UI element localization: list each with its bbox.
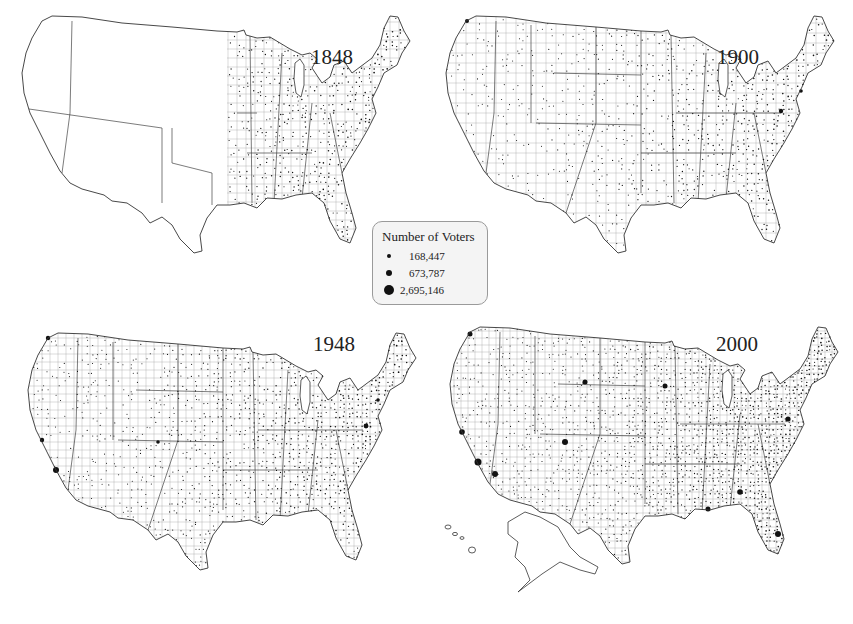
county-dot xyxy=(465,378,466,379)
county-dot xyxy=(766,436,768,438)
county-dot xyxy=(650,457,651,458)
county-dot xyxy=(549,106,550,107)
county-dot xyxy=(681,465,682,466)
county-dot xyxy=(131,511,132,512)
county-dot xyxy=(625,466,626,467)
county-dot xyxy=(620,393,621,394)
county-dot xyxy=(316,481,318,483)
county-dot xyxy=(278,95,279,96)
county-dot xyxy=(820,333,821,334)
county-dot xyxy=(514,134,515,135)
county-dot xyxy=(671,48,672,49)
county-dot xyxy=(497,330,498,331)
county-dot xyxy=(757,95,759,97)
county-dot xyxy=(343,474,345,476)
county-dot xyxy=(312,191,313,192)
county-dot xyxy=(317,396,318,397)
county-dot xyxy=(478,330,479,331)
county-dot xyxy=(582,521,583,522)
county-dot xyxy=(153,476,154,477)
county-dot xyxy=(478,406,479,407)
county-dot xyxy=(333,110,335,112)
county-dot xyxy=(706,437,707,438)
county-dot xyxy=(677,398,678,399)
county-dot xyxy=(396,49,397,50)
county-dot xyxy=(290,444,291,445)
county-dot xyxy=(153,520,154,521)
county-dot xyxy=(781,429,782,430)
county-dot xyxy=(770,526,771,527)
county-dot xyxy=(641,353,642,354)
county-dot xyxy=(757,514,758,515)
county-dot xyxy=(92,363,93,364)
county-dot xyxy=(767,160,768,161)
county-dot xyxy=(662,401,663,402)
county-dot xyxy=(303,486,304,487)
county-dot xyxy=(661,358,662,359)
county-dot xyxy=(181,421,182,422)
county-dot xyxy=(707,90,708,91)
county-dot xyxy=(316,407,317,408)
county-dot xyxy=(667,59,668,60)
county-dot xyxy=(704,461,705,462)
county-dot xyxy=(750,466,751,467)
county-dot xyxy=(246,186,247,187)
county-dot xyxy=(133,516,134,517)
county-dot xyxy=(513,178,514,179)
county-dot xyxy=(713,438,714,439)
county-dot xyxy=(773,394,774,395)
county-dot xyxy=(728,474,729,475)
county-dot xyxy=(167,385,168,386)
county-dot xyxy=(297,104,298,105)
county-dot xyxy=(645,458,646,459)
county-dot xyxy=(348,533,349,534)
county-dot xyxy=(662,434,663,435)
county-dot xyxy=(637,434,638,435)
county-dot xyxy=(772,93,773,94)
county-dot xyxy=(328,136,329,137)
county-dot xyxy=(352,523,353,524)
county-dot xyxy=(688,125,689,126)
county-dot xyxy=(281,501,282,502)
county-dot xyxy=(530,454,531,455)
county-dot xyxy=(621,369,622,370)
county-dot xyxy=(694,501,695,502)
county-dot xyxy=(281,416,282,417)
county-dot xyxy=(721,406,722,407)
county-dot xyxy=(497,359,498,360)
county-dot xyxy=(637,154,638,155)
county-dot xyxy=(522,470,523,471)
county-dot xyxy=(605,441,606,442)
county-dot xyxy=(752,461,753,462)
county-dot xyxy=(550,446,551,447)
county-dot xyxy=(646,406,647,407)
county-dot xyxy=(178,435,179,436)
county-dot xyxy=(485,329,486,330)
county-dot xyxy=(274,79,275,80)
county-dot xyxy=(523,145,524,146)
county-dot xyxy=(340,512,341,513)
county-dot xyxy=(309,181,311,183)
county-dot xyxy=(658,480,659,481)
county-dot xyxy=(733,372,734,373)
county-dot xyxy=(323,189,325,191)
county-dot xyxy=(37,368,38,369)
county-dot xyxy=(495,330,496,331)
county-dot xyxy=(504,366,505,367)
county-dot xyxy=(255,516,256,517)
county-dot xyxy=(742,105,743,106)
county-dot xyxy=(543,198,544,199)
county-dot xyxy=(289,79,290,80)
county-dot xyxy=(732,175,733,176)
county-dot xyxy=(375,402,377,404)
county-dot xyxy=(713,488,714,489)
county-dot xyxy=(334,453,335,454)
county-dot xyxy=(222,420,223,421)
county-dot xyxy=(654,34,655,35)
county-dot xyxy=(742,416,744,418)
county-dot xyxy=(358,466,359,467)
county-dot xyxy=(312,462,313,463)
county-dot xyxy=(617,365,618,366)
county-dot xyxy=(530,438,531,439)
county-dot xyxy=(791,120,792,121)
